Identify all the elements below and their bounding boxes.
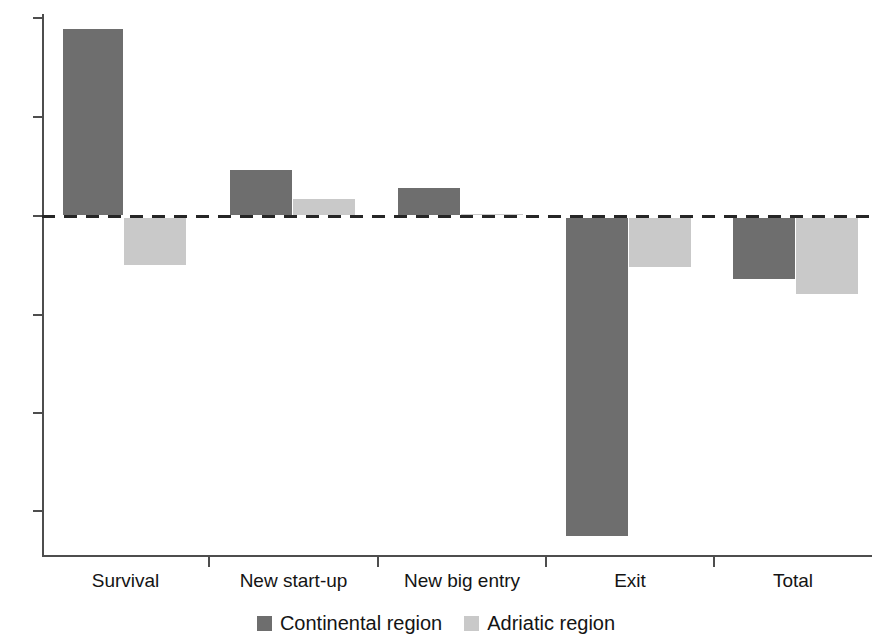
- x-tick-label-exit: Exit: [546, 570, 714, 592]
- bar-exit-continental: [566, 218, 628, 536]
- x-tick-mark-4: [713, 555, 715, 567]
- chart-legend: Continental region Adriatic region: [0, 612, 872, 634]
- legend-swatch-icon-adriatic: [464, 616, 479, 631]
- x-tick-label-newstartup: New start-up: [209, 570, 378, 592]
- bar-newstartup-adriatic: [293, 199, 355, 215]
- legend-item-continental: Continental region: [257, 612, 442, 634]
- x-axis: [42, 555, 872, 557]
- bar-newbigentry-continental: [398, 188, 460, 215]
- x-tick-label-total: Total: [714, 570, 872, 592]
- legend-label-adriatic: Adriatic region: [487, 612, 615, 634]
- legend-item-adriatic: Adriatic region: [464, 612, 615, 634]
- x-tick-mark-2: [377, 555, 379, 567]
- bar-newbigentry-adriatic: [461, 214, 523, 215]
- x-tick-mark-3: [545, 555, 547, 567]
- bar-survival-continental: [63, 29, 123, 215]
- y-axis: [42, 14, 44, 556]
- bar-survival-adriatic: [124, 218, 186, 265]
- bar-newstartup-continental: [230, 170, 292, 215]
- legend-swatch-icon-continental: [257, 616, 272, 631]
- x-tick-mark-1: [208, 555, 210, 567]
- x-tick-label-newbigentry: New big entry: [378, 570, 546, 592]
- bar-chart: 4 2 0 –2 –4 –6 Survival New start-up New…: [0, 0, 872, 641]
- bar-total-continental: [733, 218, 795, 279]
- bar-exit-adriatic: [629, 218, 691, 267]
- x-tick-label-survival: Survival: [42, 570, 209, 592]
- bar-total-adriatic: [796, 218, 858, 294]
- legend-label-continental: Continental region: [280, 612, 442, 634]
